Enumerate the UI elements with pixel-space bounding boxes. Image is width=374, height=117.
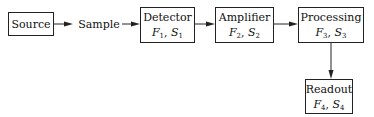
arrowhead-icon [206,22,215,27]
block-diagram: Source Sample Detector F1, S1 Amplifier … [0,0,374,117]
arrow-source-to-sample [54,22,73,27]
processing-label: Processing [301,11,362,24]
readout-label: Readout [306,83,353,96]
amplifier-node: Amplifier F2, S2 [216,8,274,43]
readout-node: Readout F4, S4 [306,80,353,114]
arrowhead-icon [329,70,334,79]
processing-node: Processing F3, S3 [299,8,364,43]
processing-params: F3, S3 [314,26,346,40]
sample-label: Sample [78,18,120,31]
arrowhead-icon [289,22,298,27]
arrow-processing-to-readout [329,43,334,79]
source-label: Source [11,18,50,31]
detector-label: Detector [143,11,192,24]
detector-params: F1, S1 [151,26,183,40]
amplifier-label: Amplifier [218,11,271,24]
detector-node: Detector F1, S1 [141,8,195,43]
arrowhead-icon [131,22,140,27]
arrowhead-icon [64,22,73,27]
arrow-amplifier-to-processing [274,22,298,27]
arrow-sample-to-detector [122,22,140,27]
amplifier-params: F2, S2 [228,26,260,40]
source-node: Source [9,13,54,36]
arrow-detector-to-amplifier [195,22,215,27]
